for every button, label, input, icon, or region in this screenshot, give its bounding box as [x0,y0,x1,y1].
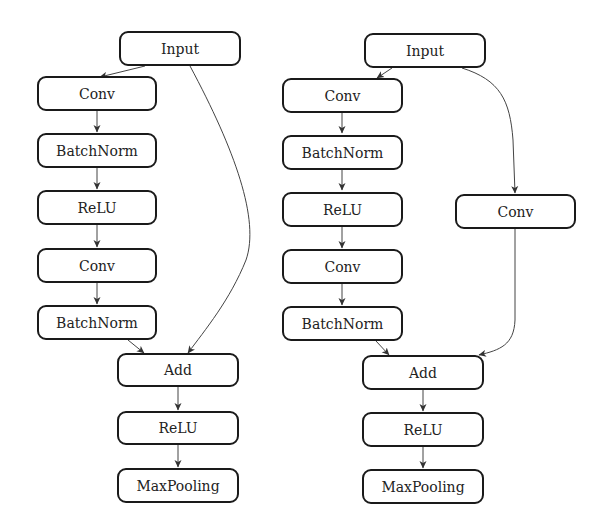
node-label: Input [161,41,199,57]
node-label: ReLU [403,422,442,438]
node-label: MaxPooling [381,479,464,495]
node-relu: ReLU [282,192,403,227]
node-conv: Conv [282,249,403,284]
node-label: BatchNorm [302,316,384,332]
edge-input-shortcut-conv [462,68,515,193]
node-conv: Conv [37,76,157,111]
edge-bn2-add-right [376,341,389,355]
node-add: Add [117,353,239,387]
node-shortcut-conv: Conv [455,194,576,229]
node-maxpooling: MaxPooling [117,468,239,503]
node-batchnorm: BatchNorm [282,135,403,170]
residual-blocks-diagram: Input Conv BatchNorm ReLU Conv BatchNorm… [0,0,604,528]
edge-input-add-skip [188,66,250,353]
node-batchnorm: BatchNorm [282,306,403,341]
node-relu: ReLU [37,190,157,225]
node-input: Input [119,31,241,66]
node-label: Conv [79,258,115,274]
node-label: BatchNorm [302,145,384,161]
node-label: Conv [324,259,360,275]
node-add: Add [362,355,484,390]
node-label: ReLU [323,202,362,218]
node-label: ReLU [158,420,197,436]
node-label: Conv [497,204,533,220]
node-label: MaxPooling [136,478,219,494]
node-conv: Conv [282,78,403,113]
node-batchnorm: BatchNorm [37,305,157,340]
node-label: BatchNorm [56,315,138,331]
node-label: Add [409,365,437,381]
node-input: Input [364,33,486,68]
node-relu: ReLU [362,412,484,447]
node-conv: Conv [37,248,157,283]
node-relu: ReLU [117,411,239,445]
node-label: ReLU [77,200,116,216]
node-label: BatchNorm [56,143,138,159]
edge-input-conv1-right [377,68,392,78]
node-label: Conv [324,88,360,104]
node-batchnorm: BatchNorm [37,133,157,168]
edge-shortcut-conv-add [479,229,515,355]
node-label: Add [164,362,192,378]
node-label: Conv [79,86,115,102]
node-maxpooling: MaxPooling [362,469,484,504]
node-label: Input [406,43,444,59]
edge-bn2-add [128,340,144,353]
